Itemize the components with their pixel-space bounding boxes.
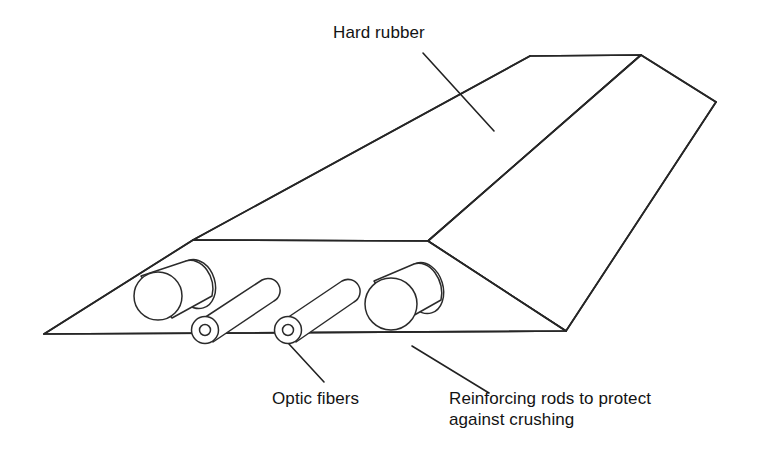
leader-line-reinforcing-rods xyxy=(412,346,489,393)
top-edge xyxy=(530,55,641,56)
rod-left-front-cap xyxy=(134,272,182,320)
optic-fiber-left-core xyxy=(200,325,211,336)
leader-line-optic-fibers xyxy=(289,344,324,382)
optic-fiber-right-core xyxy=(283,325,294,336)
label-reinforcing-line2: against crushing xyxy=(449,410,574,429)
label-reinforcing-rods: Reinforcing rods to protectagainst crush… xyxy=(449,388,651,430)
rod-right-front-cap xyxy=(365,278,417,330)
label-hard-rubber: Hard rubber xyxy=(333,22,425,43)
mid-ridge-edge xyxy=(193,240,428,241)
label-reinforcing-line1: Reinforcing rods to protect xyxy=(449,389,651,408)
figure-root: Hard rubber Optic fibers Reinforcing rod… xyxy=(0,0,758,467)
label-optic-fibers: Optic fibers xyxy=(272,388,359,409)
